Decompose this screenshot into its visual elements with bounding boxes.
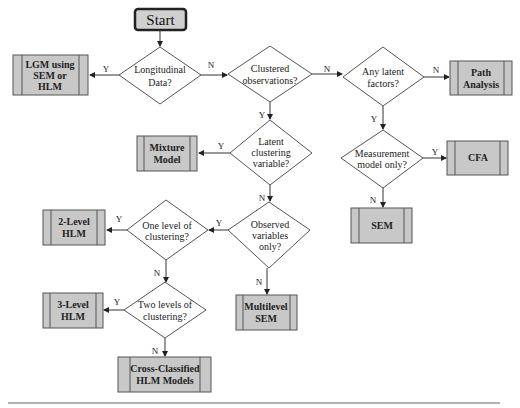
outcome-lgm: LGM using SEM or HLM: [13, 55, 88, 95]
decision-text: Two levels of: [138, 299, 193, 310]
outcome-multilevel-sem: Multilevel SEM: [236, 295, 297, 330]
outcome-text: Analysis: [463, 79, 499, 90]
outcome-text: Path: [471, 67, 491, 78]
decision-latent-factors: Any latent factors?: [343, 47, 424, 106]
decision-text: One level of: [142, 220, 192, 231]
decision-text: only?: [259, 241, 282, 252]
outcome-text: 3-Level: [57, 299, 89, 310]
outcome-text: Mixture: [150, 142, 185, 153]
outcome-text: SEM: [371, 220, 393, 231]
edge-label-no: N: [152, 346, 159, 356]
outcome-text: SEM: [255, 313, 277, 324]
edge-label-no: N: [433, 65, 440, 75]
edge-label-no: N: [259, 193, 266, 203]
decision-text: clustering?: [143, 311, 187, 322]
outcome-text: LGM using: [25, 59, 74, 70]
edge-label-yes: Y: [432, 147, 439, 157]
edge-label-yes: Y: [259, 110, 266, 120]
decision-one-level: One level of clustering?: [127, 200, 208, 260]
edge-label-yes: Y: [103, 64, 110, 74]
decision-text: variable?: [253, 158, 290, 169]
decision-longitudinal: Longitudinal Data?: [119, 47, 201, 104]
outcome-text: Cross-Classified: [130, 363, 200, 374]
edge-label-yes: Y: [216, 218, 223, 228]
decision-text: Observed: [251, 219, 289, 230]
decision-text: observations?: [243, 75, 299, 86]
decision-text: Data?: [148, 77, 172, 88]
edge-label-no: N: [256, 277, 263, 287]
outcome-sem: SEM: [351, 208, 412, 243]
outcome-text: Model: [153, 154, 180, 165]
decision-text: variables: [252, 230, 288, 241]
outcome-cross-classified: Cross-Classified HLM Models: [118, 357, 211, 392]
edge-label-yes: Y: [114, 297, 121, 307]
decision-text: model only?: [357, 159, 407, 170]
outcome-3-level-hlm: 3-Level HLM: [43, 293, 103, 328]
decision-measurement: Measurement model only?: [341, 130, 423, 188]
decision-text: clustering: [251, 147, 290, 158]
start-node: Start: [135, 9, 186, 30]
outcome-text: 2-Level: [58, 216, 90, 227]
outcome-mixture-model: Mixture Model: [137, 136, 197, 171]
decision-text: clustering?: [145, 231, 189, 242]
decision-clustered: Clustered observations?: [228, 46, 312, 102]
outcome-text: Multilevel: [244, 301, 288, 312]
outcome-text: HLM Models: [136, 375, 194, 386]
flowchart: Start Y N N N Y Y Y Y N N Y Y N N Y: [0, 0, 520, 408]
outcome-text: HLM: [61, 311, 85, 322]
edge-label-no: N: [208, 60, 215, 70]
outcome-path-analysis: Path Analysis: [450, 61, 512, 95]
decision-latent-clustering: Latent clustering variable?: [230, 120, 312, 185]
outcome-text: HLM: [38, 81, 62, 92]
decision-text: Measurement: [355, 148, 410, 159]
outcome-2-level-hlm: 2-Level HLM: [43, 210, 105, 245]
edge-label-no: N: [154, 268, 161, 278]
decision-text: Longitudinal: [134, 64, 186, 75]
outcome-text: SEM or: [33, 70, 67, 81]
edge-label-no: N: [370, 195, 377, 205]
decision-text: Any latent: [362, 66, 404, 77]
decision-text: Latent: [258, 136, 284, 147]
start-label: Start: [146, 12, 175, 28]
decision-observed: Observed variables only?: [228, 202, 310, 268]
outcome-cfa: CFA: [447, 141, 508, 175]
decision-text: Clustered: [251, 63, 289, 74]
edge-label-yes: Y: [218, 141, 225, 151]
outcome-text: HLM: [62, 228, 86, 239]
decision-two-levels: Two levels of clustering?: [124, 282, 206, 338]
edge-label-no: N: [324, 64, 331, 74]
decision-text: factors?: [367, 78, 399, 89]
edge-label-yes: Y: [371, 114, 378, 124]
edge-label-yes: Y: [116, 214, 123, 224]
outcome-text: CFA: [468, 152, 489, 163]
